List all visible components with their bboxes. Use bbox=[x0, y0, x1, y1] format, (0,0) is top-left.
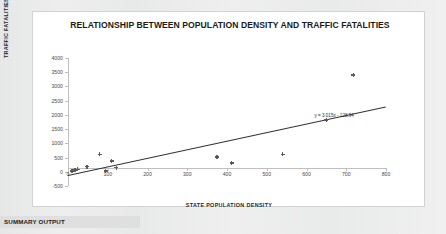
y-tick-label: 500 bbox=[54, 155, 63, 161]
y-tick bbox=[65, 143, 68, 144]
y-tick-label: 1000 bbox=[51, 140, 63, 146]
trendline-equation-label: y = 3.015x - 128.94 bbox=[314, 113, 353, 118]
y-tick bbox=[65, 129, 68, 130]
y-tick-label: 0 bbox=[60, 169, 63, 175]
y-tick-label: 4000 bbox=[51, 55, 63, 61]
y-tick-label: 1500 bbox=[51, 126, 63, 132]
y-tick bbox=[65, 115, 68, 116]
data-point[interactable] bbox=[98, 152, 102, 156]
chart-object[interactable]: RELATIONSHIP BETWEEN POPULATION DENSITY … bbox=[32, 11, 425, 207]
data-point[interactable] bbox=[281, 152, 285, 156]
plot-area[interactable]: STATE POPULATION DENSITY -50005001000150… bbox=[68, 52, 390, 192]
y-tick bbox=[65, 101, 68, 102]
spreadsheet-canvas: RELATIONSHIP BETWEEN POPULATION DENSITY … bbox=[0, 0, 446, 234]
y-tick bbox=[65, 186, 68, 187]
data-point[interactable] bbox=[324, 118, 328, 122]
y-tick bbox=[65, 158, 68, 159]
y-axis-line bbox=[68, 58, 69, 186]
data-point[interactable] bbox=[110, 159, 114, 163]
x-tick-label: 800 bbox=[382, 171, 391, 177]
y-tick-label: 3000 bbox=[51, 83, 63, 89]
y-tick-label: 2000 bbox=[51, 112, 63, 118]
y-tick bbox=[65, 72, 68, 73]
data-point[interactable] bbox=[76, 167, 80, 171]
summary-output-label: SUMMARY OUTPUT bbox=[4, 218, 65, 225]
x-axis-title: STATE POPULATION DENSITY bbox=[68, 202, 390, 208]
data-point[interactable] bbox=[85, 165, 89, 169]
x-tick-label: 300 bbox=[183, 171, 192, 177]
y-tick-label: -500 bbox=[53, 183, 63, 189]
x-tick-label: 200 bbox=[143, 171, 152, 177]
x-tick-label: 500 bbox=[262, 171, 271, 177]
chart-title: RELATIONSHIP BETWEEN POPULATION DENSITY … bbox=[69, 20, 391, 32]
x-tick-label: 600 bbox=[302, 171, 311, 177]
y-tick bbox=[65, 86, 68, 87]
y-tick-label: 2500 bbox=[51, 98, 63, 104]
data-point[interactable] bbox=[114, 166, 118, 170]
data-point[interactable] bbox=[230, 161, 234, 165]
y-axis-title: TRAFFIC FATALITIES bbox=[3, 0, 9, 58]
data-point[interactable] bbox=[215, 155, 219, 159]
y-tick bbox=[65, 58, 68, 59]
x-tick-label: 400 bbox=[223, 171, 232, 177]
data-point[interactable] bbox=[351, 73, 355, 77]
y-tick-label: 3500 bbox=[51, 69, 63, 75]
summary-output-cell[interactable]: SUMMARY OUTPUT bbox=[0, 216, 140, 228]
x-tick-label: 700 bbox=[342, 171, 351, 177]
data-point[interactable] bbox=[104, 169, 108, 173]
